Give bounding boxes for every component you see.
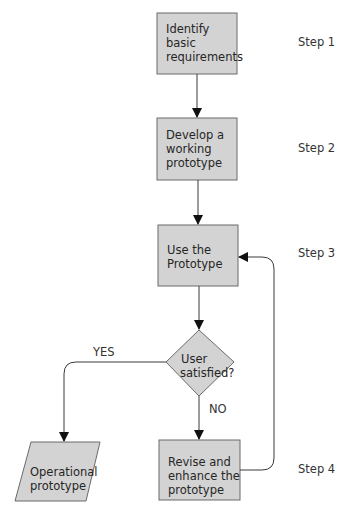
text-line: Operational xyxy=(30,465,97,479)
text-line: prototype xyxy=(168,483,240,497)
text-line: Develop a xyxy=(166,128,224,142)
text-line: Revise and xyxy=(168,455,240,469)
node-user-satisfied-text: User satisfied? xyxy=(181,352,234,380)
node-identify-requirements-text: Identify basic requirements xyxy=(166,22,243,64)
text-line: satisfied? xyxy=(180,366,234,380)
text-line: prototype xyxy=(166,156,224,170)
node-develop-prototype-text: Develop a working prototype xyxy=(166,128,224,170)
edge-n6-n3-loop xyxy=(239,257,274,470)
edge-label-no: NO xyxy=(209,402,227,416)
text-line: working xyxy=(166,142,224,156)
step-label-1: Step 1 xyxy=(298,35,335,49)
step-label-2: Step 2 xyxy=(298,141,335,155)
step-label-3: Step 3 xyxy=(298,246,335,260)
text-line: User xyxy=(181,352,234,366)
step-label-4: Step 4 xyxy=(298,462,335,476)
text-line: requirements xyxy=(166,50,243,64)
edge-n4-n5-yes xyxy=(64,362,166,441)
text-line: enhance the xyxy=(168,469,240,483)
text-line: basic xyxy=(166,36,243,50)
text-line: prototype xyxy=(30,479,97,493)
text-line: Prototype xyxy=(167,257,222,271)
edge-label-yes: YES xyxy=(93,345,115,359)
node-revise-enhance-text: Revise and enhance the prototype xyxy=(168,455,240,497)
node-use-prototype-text: Use the Prototype xyxy=(167,243,222,271)
node-operational-prototype-text: Operational prototype xyxy=(30,465,97,493)
text-line: Identify xyxy=(166,22,243,36)
text-line: Use the xyxy=(167,243,222,257)
